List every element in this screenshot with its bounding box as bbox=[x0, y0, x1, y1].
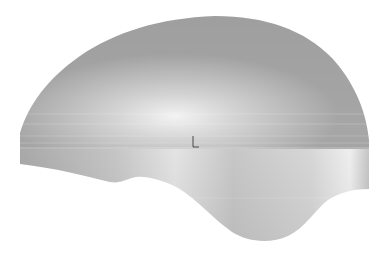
shaded-surface-model[interactable] bbox=[0, 0, 389, 261]
3d-viewport[interactable] bbox=[0, 0, 389, 261]
